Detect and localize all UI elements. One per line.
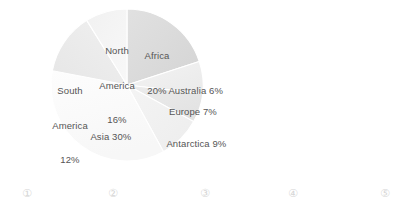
footer-marker-2[interactable]: ② [105, 187, 121, 200]
pie-label-europe: Europe 7% [158, 94, 217, 129]
footer-marker-1[interactable]: ① [19, 187, 35, 200]
pie-label-asia: Asia 30% [80, 119, 131, 154]
pie-label-europe-text: Europe 7% [169, 106, 217, 117]
footer-marker-5[interactable]: ⑤ [377, 187, 393, 200]
pie-chart-figure: North America 16% South America 12% Afri… [0, 0, 405, 175]
pie-label-south-america-value: 12% [40, 154, 100, 166]
footer-marker-3[interactable]: ③ [197, 187, 213, 200]
pie-label-antarctica-text: Antarctica 9% [166, 138, 226, 149]
pie-label-antarctica: Antarctica 9% [156, 126, 226, 161]
pie-label-south-america-line1: South [40, 85, 100, 97]
footer-marker-4[interactable]: ④ [285, 187, 301, 200]
pie-label-africa-name: Africa [134, 50, 180, 62]
footer-marker-row: ① ② ③ ④ ⑤ [0, 175, 405, 219]
pie-label-asia-text: Asia 30% [90, 131, 131, 142]
